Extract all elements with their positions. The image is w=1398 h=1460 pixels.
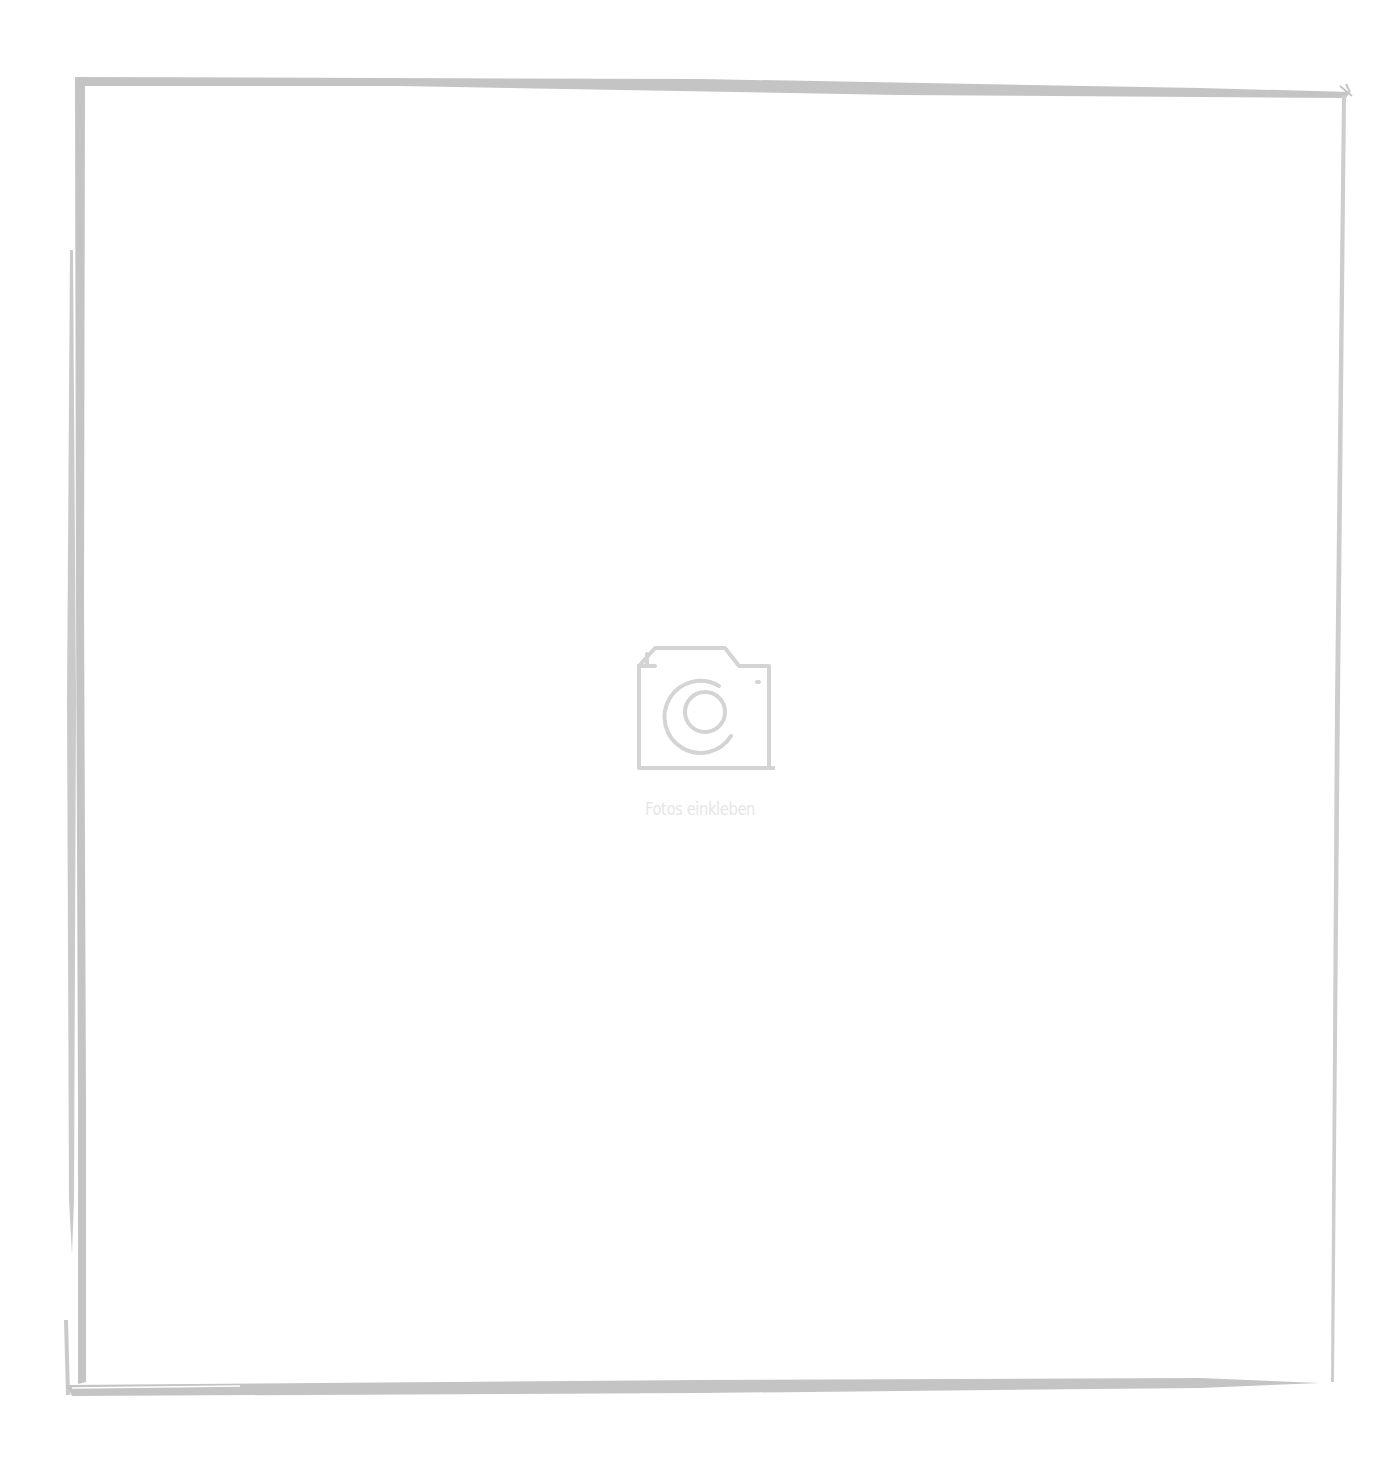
- photo-placeholder[interactable]: Fotos einkleben: [600, 640, 800, 819]
- camera-icon: [625, 640, 775, 770]
- placeholder-caption: Fotos einkleben: [618, 798, 782, 819]
